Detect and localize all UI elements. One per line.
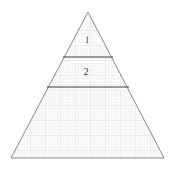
band-label-2: 2	[79, 67, 93, 78]
figure-canvas	[0, 0, 171, 170]
band-label-1: 1	[80, 35, 94, 45]
triangle-figure: 1 2	[0, 0, 171, 170]
